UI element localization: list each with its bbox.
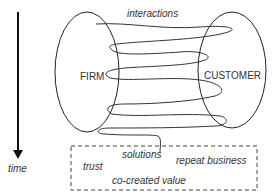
interaction-path <box>96 24 232 152</box>
firm-customer-interaction-diagram: time FIRM CUSTOMER interactions trust so… <box>0 0 273 196</box>
outcome-trust: trust <box>83 161 104 172</box>
outcome-co-created-value: co-created value <box>112 175 186 186</box>
customer-label: CUSTOMER <box>204 70 261 81</box>
firm-label: FIRM <box>80 71 104 82</box>
time-label: time <box>8 163 27 174</box>
interactions-label: interactions <box>127 8 178 19</box>
time-arrow-head <box>13 150 23 159</box>
outcome-solutions: solutions <box>122 149 161 160</box>
outcome-repeat-business: repeat business <box>176 155 247 166</box>
